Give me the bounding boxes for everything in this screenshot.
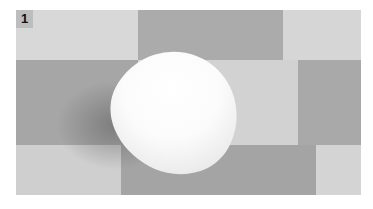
tile [316, 145, 361, 195]
tile [298, 60, 361, 145]
tile [283, 10, 361, 60]
photo [16, 10, 361, 195]
panel-label: 1 [16, 10, 33, 28]
tile [16, 10, 138, 60]
